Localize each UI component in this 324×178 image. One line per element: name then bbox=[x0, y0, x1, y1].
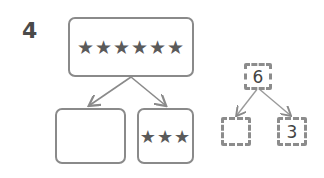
whole-stars-box: ★★★★★★ bbox=[68, 17, 194, 77]
bond-whole-value: 6 bbox=[253, 67, 264, 87]
empty-part-box[interactable] bbox=[55, 108, 126, 164]
part-stars-box: ★★★ bbox=[137, 108, 194, 164]
star-group-three: ★★★ bbox=[140, 126, 191, 147]
bond-right-part-value: 3 bbox=[287, 122, 298, 142]
bond-whole-box: 6 bbox=[244, 63, 272, 90]
star-group-six: ★★★★★★ bbox=[77, 36, 185, 58]
bond-left-part-box[interactable] bbox=[221, 117, 251, 146]
bond-right-part-box: 3 bbox=[277, 117, 307, 146]
